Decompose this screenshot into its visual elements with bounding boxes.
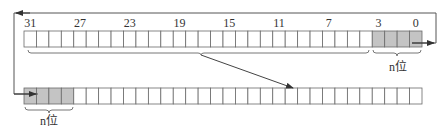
bit-cell — [49, 88, 61, 104]
bit-label-31: 31 — [24, 17, 36, 29]
bit-cell — [347, 31, 359, 47]
bit-cell — [347, 88, 359, 104]
bit-cell — [124, 88, 136, 104]
bit-cell — [111, 88, 123, 104]
bit-cell — [173, 31, 185, 47]
bit-cell — [310, 88, 322, 104]
bit-cell — [111, 31, 123, 47]
shift-arrow-icon — [201, 55, 293, 88]
bit-cell — [260, 31, 272, 47]
bit-label-27: 27 — [74, 17, 86, 29]
bit-cell — [323, 31, 335, 47]
bit-cell — [74, 31, 86, 47]
bit-cell — [223, 88, 235, 104]
bit-cell — [136, 31, 148, 47]
bit-cell — [273, 88, 285, 104]
bit-cell — [285, 31, 297, 47]
bit-cell — [136, 88, 148, 104]
bit-cell — [260, 88, 272, 104]
bit-cell — [86, 31, 98, 47]
bit-cell — [161, 88, 173, 104]
bit-label-7: 7 — [326, 17, 332, 29]
bit-cell — [310, 31, 322, 47]
bit-cell — [223, 31, 235, 47]
bit-label-19: 19 — [174, 17, 186, 29]
bit-cell — [335, 31, 347, 47]
bit-cell — [49, 31, 61, 47]
bit-cell — [298, 88, 310, 104]
bit-cell — [372, 31, 384, 47]
bit-cell — [198, 88, 210, 104]
bit-cell — [298, 31, 310, 47]
bit-cell — [86, 88, 98, 104]
bit-cell — [385, 88, 397, 104]
bottom-register — [24, 88, 422, 104]
bottom-n-bits-brace — [25, 107, 73, 113]
bit-cell — [24, 31, 36, 47]
bit-cell — [285, 88, 297, 104]
bit-label-11: 11 — [273, 17, 285, 29]
bit-cell — [397, 31, 409, 47]
bottom-n-bits-label: n位 — [40, 115, 58, 127]
top-shift-brace — [28, 50, 369, 55]
bit-cell — [410, 88, 422, 104]
bit-cell — [186, 88, 198, 104]
bit-cell — [372, 88, 384, 104]
bit-cell — [211, 88, 223, 104]
bit-cell — [235, 88, 247, 104]
bit-cell — [148, 31, 160, 47]
bit-cell — [148, 88, 160, 104]
bit-cell — [235, 31, 247, 47]
bit-cell — [61, 31, 73, 47]
bit-cell — [397, 88, 409, 104]
top-n-bits-label: n位 — [389, 61, 407, 73]
bit-cell — [360, 31, 372, 47]
bit-cell — [124, 31, 136, 47]
bit-cell — [36, 88, 48, 104]
bit-cell — [335, 88, 347, 104]
bit-cell — [99, 88, 111, 104]
top-register — [24, 31, 422, 47]
bit-cell — [248, 88, 260, 104]
bit-cell — [211, 31, 223, 47]
bit-cell — [273, 31, 285, 47]
bit-cell — [385, 31, 397, 47]
bit-cell — [410, 31, 422, 47]
bit-cell — [323, 88, 335, 104]
bit-cell — [61, 88, 73, 104]
bit-label-15: 15 — [223, 17, 235, 29]
bit-cell — [161, 31, 173, 47]
bit-label-3: 3 — [376, 17, 382, 29]
bit-cell — [36, 31, 48, 47]
bit-label-0: 0 — [413, 17, 419, 29]
bit-label-23: 23 — [124, 17, 136, 29]
bit-cell — [173, 88, 185, 104]
top-n-bits-brace — [373, 50, 421, 56]
bit-cell — [74, 88, 86, 104]
bit-cell — [186, 31, 198, 47]
bit-cell — [24, 88, 36, 104]
bit-cell — [360, 88, 372, 104]
bit-cell — [198, 31, 210, 47]
bit-cell — [99, 31, 111, 47]
bit-cell — [248, 31, 260, 47]
